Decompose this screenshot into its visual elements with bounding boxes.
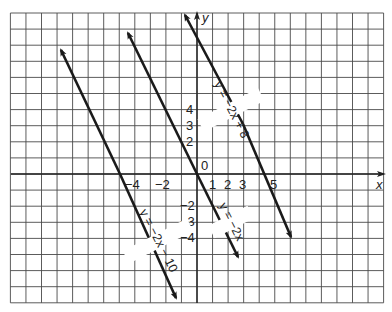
line-y-neg2x-minus-10 — [61, 50, 120, 174]
y-tick-label: −2 — [180, 198, 195, 213]
y-tick-label: 4 — [186, 102, 193, 117]
y-tick-label: 2 — [186, 134, 193, 149]
x-tick-label: 3 — [239, 177, 246, 192]
x-tick-label: 1 — [209, 177, 216, 192]
y-tick-label: 3 — [186, 118, 193, 133]
x-tick-label: −2 — [155, 177, 170, 192]
coordinate-graph: x y 0 −4 −2 1 2 3 5 4 3 2 −2 −3 −4 y = −… — [0, 0, 392, 312]
x-tick-label: 2 — [224, 177, 231, 192]
x-axis-label: x — [375, 177, 383, 192]
origin-label: 0 — [201, 158, 208, 173]
y-axis-label: y — [201, 10, 210, 25]
